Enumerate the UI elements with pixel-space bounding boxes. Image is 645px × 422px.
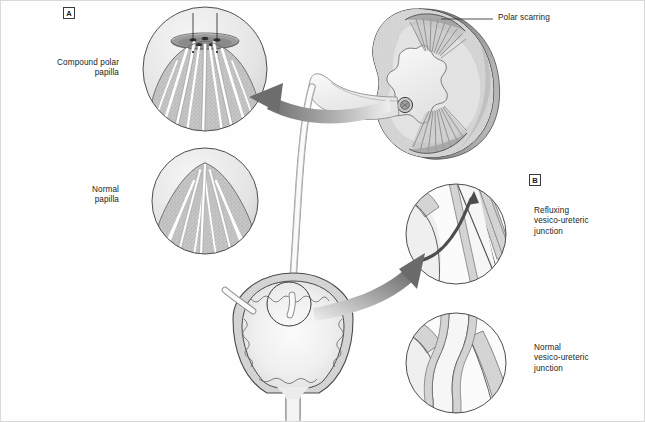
dilated-calyx: [397, 97, 412, 112]
label-normal-vesico-ureteric-junction: Normal vesico-ureteric junction: [534, 343, 634, 374]
panel-tag-a: A: [63, 7, 75, 19]
label-polar-scarring: Polar scarring: [498, 13, 618, 23]
normal-papilla-inset: [152, 148, 258, 256]
label-normal-papilla: Normal papilla: [47, 185, 119, 206]
label-compound-polar-papilla: Compound polar papilla: [19, 58, 119, 79]
compound-polar-papilla-inset: [143, 7, 267, 133]
urethra: [277, 387, 309, 421]
urinary-bladder: [225, 273, 353, 421]
normal-vuj-inset: [399, 313, 511, 413]
kidney-coronal-section: [373, 9, 500, 159]
figure-canvas: Compound polar papilla Normal papilla Po…: [0, 0, 645, 422]
label-refluxing-vesico-ureteric-junction: Refluxing vesico-ureteric junction: [534, 206, 634, 237]
panel-tag-b: B: [529, 174, 541, 186]
